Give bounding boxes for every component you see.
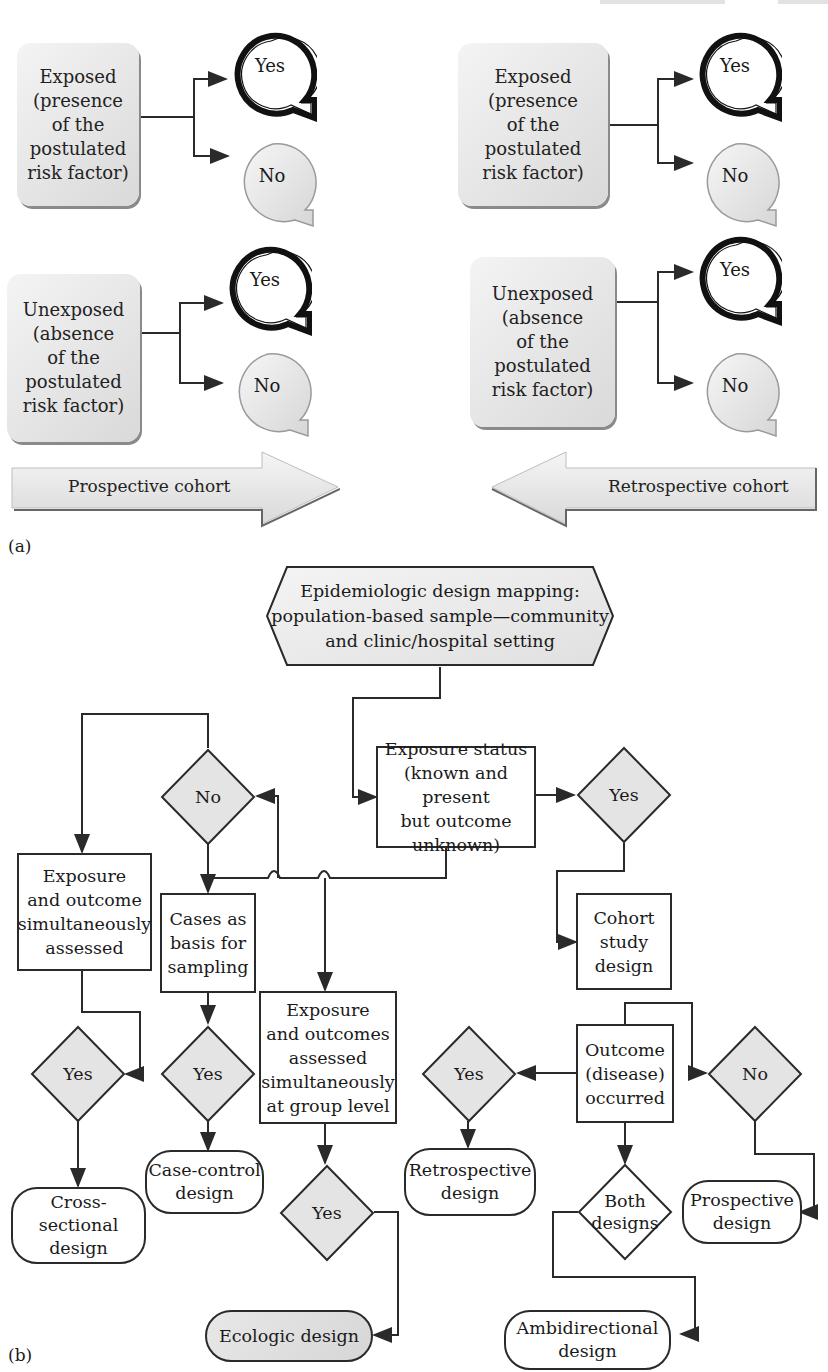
box-line: sampling [168,955,249,979]
box-line: and outcomes [261,1022,394,1046]
box-line: (presence [27,89,128,113]
terminal-case-control-design: Case-control design [145,1150,264,1214]
decision-yes-case-control: Yes [160,1025,256,1123]
box-line: Exposure status [378,737,534,761]
box-line: assessed [261,1046,394,1070]
outcome-no-bubble: No [224,350,310,426]
panel-label-a: (a) [8,536,31,556]
yes-label: Yes [250,269,280,290]
box-line: Exposure [18,864,151,888]
terminal-line: Ecologic design [219,1325,359,1348]
box-line: risk factor) [482,161,583,185]
decision-both-designs: Both designs [577,1163,673,1261]
box-line: Outcome [585,1038,665,1062]
box-line: of the [27,113,128,137]
outcome-no-bubble: No [229,140,315,216]
box-line: and outcome [18,888,151,912]
decision-no-prospective: No [707,1025,803,1123]
box-line: (known and present [378,761,534,809]
decision-label: Yes [609,784,638,806]
panel-label-b: (b) [8,1345,32,1365]
decision-label: Yes [454,1063,483,1085]
box-line: (disease) [585,1062,665,1086]
group-level-assessment-box: Exposure and outcomes assessed simultane… [259,991,397,1124]
box-line: Cases as [168,907,249,931]
box-line: simultaneously [18,912,151,936]
running-header-clipped [600,0,828,6]
unexposed-box-prospective: Unexposed (absence of the postulated ris… [7,274,140,442]
box-line: (absence [23,322,124,346]
box-line: Exposed [27,65,128,89]
decision-label: Both [591,1190,659,1212]
terminal-line: Prospective [690,1189,794,1212]
cases-basis-sampling-box: Cases as basis for sampling [160,893,256,993]
box-line: at group level [261,1094,394,1118]
terminal-line: Ambidirectional [517,1317,659,1340]
decision-yes-cross-sectional: Yes [30,1025,126,1123]
box-line: unknown) [378,833,534,857]
exposed-box-prospective: Exposed (presence of the postulated risk… [17,43,139,206]
no-label: No [722,165,749,186]
prospective-cohort-label: Prospective cohort [68,476,230,496]
outcome-yes-bubble: Yes [222,244,308,320]
unexposed-box-retrospective: Unexposed (absence of the postulated ris… [470,257,615,427]
terminal-ambidirectional-design: Ambidirectional design [504,1310,671,1370]
terminal-cross-sectional-design: Cross- sectional design [11,1187,146,1264]
box-line: (presence [482,89,583,113]
decision-yes-exposure: Yes [576,746,672,844]
terminal-prospective-design: Prospective design [682,1180,802,1244]
terminal-retrospective-design: Retrospective design [404,1148,536,1216]
box-line: of the [492,330,593,354]
box-line: (absence [492,306,593,330]
start-line: Epidemiologic design mapping: [271,579,609,604]
box-line: basis for [168,931,249,955]
terminal-line: design [690,1212,794,1235]
exposed-box-retrospective: Exposed (presence of the postulated risk… [458,43,608,206]
box-line: postulated [23,370,124,394]
box-line: study [593,930,654,954]
decision-no-exposure: No [160,748,256,846]
outcome-yes-bubble: Yes [227,30,313,106]
terminal-line: Case-control [148,1159,260,1182]
cohort-study-design-box: Cohort study design [576,893,672,990]
box-line: Exposed [482,65,583,89]
outcome-no-bubble: No [692,140,778,216]
box-line: Unexposed [23,298,124,322]
outcome-yes-bubble: Yes [692,30,778,106]
outcome-occurred-box: Outcome (disease) occurred [576,1024,674,1123]
box-line: postulated [492,354,593,378]
start-line: population-based sample—community [271,604,609,629]
box-line: simultaneously [261,1070,394,1094]
box-line: design [593,954,654,978]
box-line: postulated [482,137,583,161]
box-line: assessed [18,936,151,960]
exposure-status-box: Exposure status (known and present but o… [376,746,536,848]
decision-label: No [195,786,221,808]
box-line: Unexposed [492,282,593,306]
terminal-line: design [148,1182,260,1205]
start-hexagon: Epidemiologic design mapping: population… [265,565,615,667]
yes-label: Yes [720,55,750,76]
box-line: risk factor) [492,378,593,402]
no-label: No [254,375,281,396]
decision-label: No [742,1063,768,1085]
decision-label: designs [591,1212,659,1234]
prospective-cohort-arrow: Prospective cohort [10,450,340,530]
outcome-yes-bubble: Yes [692,234,778,310]
box-line: risk factor) [27,161,128,185]
box-line: postulated [27,137,128,161]
terminal-line: design [39,1237,119,1260]
terminal-line: Cross- [39,1191,119,1214]
decision-label: Yes [63,1063,92,1085]
retrospective-cohort-arrow: Retrospective cohort [490,450,820,530]
box-line: of the [23,346,124,370]
yes-label: Yes [255,55,285,76]
terminal-line: design [517,1340,659,1363]
box-line: Cohort [593,906,654,930]
yes-label: Yes [720,259,750,280]
exposure-outcome-simultaneous-box: Exposure and outcome simultaneously asse… [17,853,152,971]
terminal-line: design [409,1182,532,1205]
box-line: occurred [585,1086,665,1110]
box-line: of the [482,113,583,137]
outcome-no-bubble: No [692,350,778,426]
